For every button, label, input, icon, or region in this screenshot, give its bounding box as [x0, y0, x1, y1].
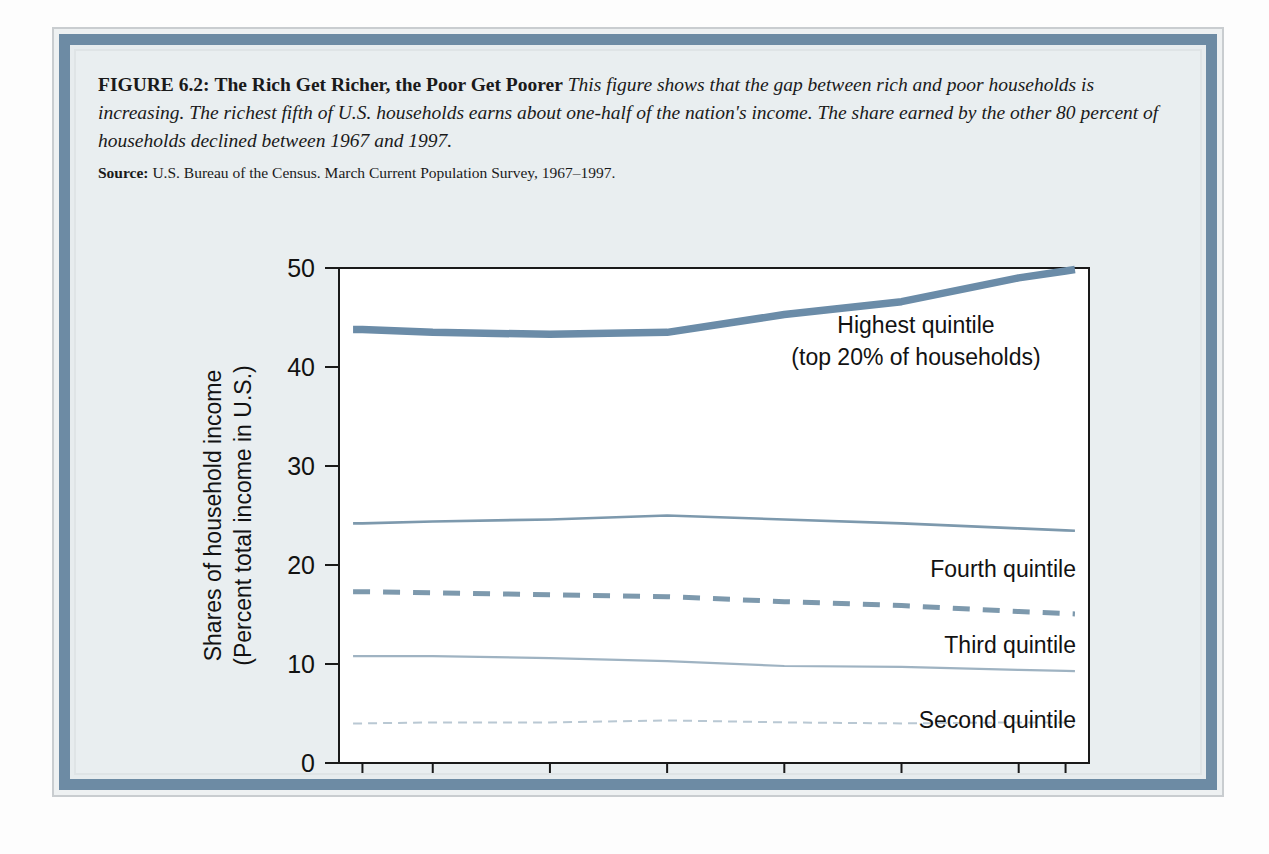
- figure-title: The Rich Get Richer, the Poor Get Poorer: [214, 74, 562, 95]
- source-text: U.S. Bureau of the Census. March Current…: [152, 164, 615, 181]
- y-tick-label-30: 30: [287, 452, 315, 480]
- caption-paragraph: FIGURE 6.2: The Rich Get Richer, the Poo…: [98, 71, 1178, 155]
- series-label-second-quintile: Second quintile: [919, 707, 1076, 733]
- series-sublabel-highest-quintile: (top 20% of households): [791, 344, 1040, 370]
- y-axis-title-line2: (Percent total income in U.S.): [230, 365, 256, 665]
- chart-container: 01020304050 1967197019751980198519901995…: [76, 201, 1202, 775]
- series-label-fourth-quintile: Fourth quintile: [930, 556, 1076, 582]
- figure-page: FIGURE 6.2: The Rich Get Richer, the Poo…: [0, 0, 1269, 854]
- y-tick-label-20: 20: [287, 551, 315, 579]
- series-label-lowest-quintile: Lowest quintile: [924, 774, 1076, 775]
- y-tick-label-0: 0: [301, 749, 315, 775]
- y-axis: 01020304050: [287, 254, 339, 775]
- y-axis-title-line1: Shares of household income: [200, 370, 226, 662]
- figure-frame-band: FIGURE 6.2: The Rich Get Richer, the Poo…: [59, 34, 1217, 790]
- y-tick-label-50: 50: [287, 254, 315, 282]
- line-chart: 01020304050 1967197019751980198519901995…: [76, 201, 1202, 775]
- figure-source: Source: U.S. Bureau of the Census. March…: [98, 163, 1178, 183]
- figure-label: FIGURE 6.2:: [98, 74, 210, 95]
- y-tick-label-40: 40: [287, 353, 315, 381]
- plot-background: [339, 268, 1089, 763]
- series-label-highest-quintile: Highest quintile: [837, 312, 994, 338]
- figure-caption: FIGURE 6.2: The Rich Get Richer, the Poo…: [98, 71, 1178, 183]
- figure-frame-inner: FIGURE 6.2: The Rich Get Richer, the Poo…: [74, 49, 1202, 775]
- series-label-third-quintile: Third quintile: [944, 632, 1076, 658]
- x-axis: 19671970197519801985199019951997: [335, 763, 1094, 775]
- y-tick-label-10: 10: [287, 650, 315, 678]
- figure-frame-outer: FIGURE 6.2: The Rich Get Richer, the Poo…: [52, 27, 1224, 797]
- source-word: Source:: [98, 164, 149, 181]
